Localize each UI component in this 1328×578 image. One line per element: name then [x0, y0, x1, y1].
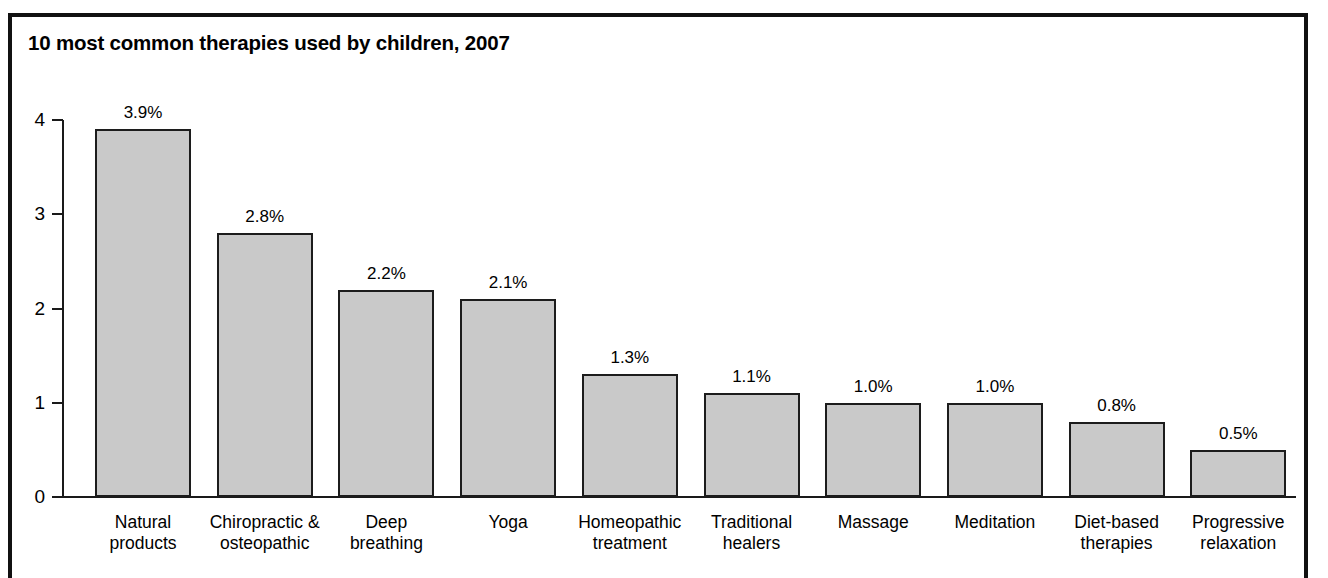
x-category-label-line: healers — [672, 533, 832, 554]
bar — [704, 393, 800, 497]
bar-value-label: 0.5% — [1170, 425, 1306, 442]
bar — [338, 290, 434, 497]
y-tick-mark — [52, 213, 63, 215]
y-tick-mark — [52, 119, 63, 121]
bar — [217, 233, 313, 497]
x-category-label-line: Progressive — [1158, 512, 1318, 533]
bar — [460, 299, 556, 497]
bar — [95, 129, 191, 497]
bar-value-label: 1.0% — [805, 378, 941, 395]
y-tick-mark — [52, 496, 63, 498]
bar-value-label: 1.1% — [684, 368, 820, 385]
y-tick-label: 0 — [5, 487, 45, 506]
y-tick-label: 1 — [5, 393, 45, 412]
chart-figure: 10 most common therapies used by childre… — [0, 0, 1328, 578]
y-tick-label: 2 — [5, 299, 45, 318]
bar — [1190, 450, 1286, 497]
bar — [947, 403, 1043, 497]
bar — [582, 374, 678, 497]
y-tick-mark — [52, 402, 63, 404]
y-tick-label: 4 — [5, 110, 45, 129]
x-category-label: Progressiverelaxation — [1158, 512, 1318, 554]
x-category-label-line: relaxation — [1158, 533, 1318, 554]
bar — [1069, 422, 1165, 497]
bar-value-label: 2.2% — [318, 265, 454, 282]
bar — [825, 403, 921, 497]
y-tick-label: 3 — [5, 204, 45, 223]
plot-area: 01234 3.9%2.8%2.2%2.1%1.3%1.1%1.0%1.0%0.… — [0, 0, 1328, 578]
bar-value-label: 2.1% — [440, 274, 576, 291]
bar-value-label: 1.0% — [927, 378, 1063, 395]
bar-value-label: 2.8% — [197, 208, 333, 225]
bar-value-label: 1.3% — [562, 349, 698, 366]
bar-value-label: 3.9% — [75, 104, 211, 121]
x-category-label-line: breathing — [306, 533, 466, 554]
y-tick-mark — [52, 308, 63, 310]
bar-value-label: 0.8% — [1049, 397, 1185, 414]
